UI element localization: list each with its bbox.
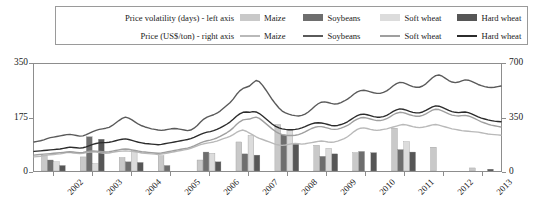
x-tickmark-2003 [92,172,93,176]
x-tickmark-2004 [131,172,132,176]
x-tick-label-2003: 2003 [104,177,124,197]
legend-line-soft-wheat: Soft wheat [380,31,441,41]
x-tick-label-2012: 2012 [456,177,476,197]
legend-line-label-soybeans: Soybeans [323,31,360,41]
legend-bar-maize: Maize [240,13,285,23]
x-tickmark-2002 [53,172,54,176]
legend-bar-swatch-soft-wheat [380,14,400,21]
legend-line-swatch-hard-wheat [457,35,477,37]
x-tick-label-2006: 2006 [221,177,241,197]
x-tick-label-2011: 2011 [416,177,436,197]
legend-line-maize: Maize [240,31,285,41]
x-tickmark-2010 [365,172,366,176]
legend-row-volatility: Price volatility (days) - left axis Maiz… [56,8,527,27]
legend-bar-swatch-hard-wheat [457,14,477,21]
legend-line-swatch-maize [240,35,260,37]
x-tick-label-2004: 2004 [143,177,163,197]
chart-legend: Price volatility (days) - left axis Maiz… [55,6,528,45]
legend-bar-label-soft-wheat: Soft wheat [400,13,441,23]
chart-area: 0175350 0350700 200220032004200520062007… [0,48,555,218]
x-tickmark-2005 [170,172,171,176]
x-tick-label-2005: 2005 [182,177,202,197]
legend-line-swatch-soft-wheat [380,35,400,37]
legend-line-label-hard-wheat: Hard wheat [477,31,521,41]
x-tickmark-2006 [209,172,210,176]
y-left-tick-0: 0 [0,166,28,176]
x-tickmark-2012 [443,172,444,176]
x-tickmark-2009 [326,172,327,176]
line-series-layer [34,64,501,171]
legend-bar-label-hard-wheat: Hard wheat [477,13,521,23]
legend-line-label-maize: Maize [260,31,285,41]
y-left-tickmark-350 [29,63,33,64]
y-left-tick-175: 175 [0,112,28,122]
x-tick-label-2002: 2002 [65,177,85,197]
legend-row-price-title: Price (US$/ton) - right axis [56,31,240,41]
y-right-tick-0: 0 [509,166,539,176]
legend-row-price: Price (US$/ton) - right axis Maize Soybe… [56,26,527,45]
y-right-tick-700: 700 [509,57,539,67]
x-tickmark-2013 [482,172,483,176]
legend-bar-soft-wheat: Soft wheat [380,13,441,23]
legend-bar-soybeans: Soybeans [303,13,360,23]
legend-line-soybeans: Soybeans [303,31,360,41]
x-tick-label-2010: 2010 [377,177,397,197]
legend-bar-swatch-soybeans [303,14,323,21]
x-tickmark-2007 [248,172,249,176]
y-left-tickmark-0 [29,172,33,173]
legend-bar-swatch-maize [240,14,260,21]
line-soybeans [34,75,501,142]
y-right-tickmark-700 [502,63,506,64]
x-tickmark-2011 [404,172,405,176]
x-tick-label-2009: 2009 [338,177,358,197]
y-right-tickmark-350 [502,118,506,119]
line-soft-wheat [34,109,501,155]
legend-row-volatility-title: Price volatility (days) - left axis [56,13,240,23]
legend-line-label-soft-wheat: Soft wheat [400,31,441,41]
plot-frame [33,63,502,172]
x-tickmark-2008 [287,172,288,176]
y-right-tickmark-0 [502,172,506,173]
x-tick-label-2008: 2008 [299,177,319,197]
legend-bar-hard-wheat: Hard wheat [457,13,521,23]
y-left-tickmark-175 [29,118,33,119]
x-tick-label-2013: 2013 [495,177,515,197]
legend-bar-label-soybeans: Soybeans [323,13,360,23]
legend-line-hard-wheat: Hard wheat [457,31,521,41]
y-right-tick-350: 350 [509,112,539,122]
legend-bar-label-maize: Maize [260,13,285,23]
x-tick-label-2007: 2007 [260,177,280,197]
legend-line-swatch-soybeans [303,35,323,37]
y-left-tick-350: 350 [0,57,28,67]
